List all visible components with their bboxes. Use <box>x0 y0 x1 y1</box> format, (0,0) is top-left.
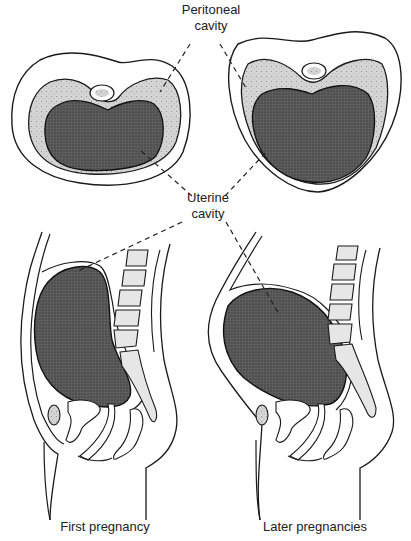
vertebra-1 <box>336 246 358 260</box>
peritoneal-label-line2: cavity <box>172 18 250 34</box>
transverse-first-panel <box>12 53 190 185</box>
rectum <box>114 409 143 460</box>
peritoneal-cavity-label: Peritoneal cavity <box>172 2 250 34</box>
back-contour-inner <box>359 250 366 340</box>
rectum <box>324 409 353 460</box>
caption-first-pregnancy: First pregnancy <box>40 519 170 535</box>
sagittal-first-panel <box>21 232 177 520</box>
thigh-front <box>44 442 50 520</box>
bladder <box>66 400 100 442</box>
transverse-later-panel <box>229 32 401 192</box>
uterine-cavity <box>224 288 347 405</box>
vertebra-1 <box>126 250 148 266</box>
back-contour <box>146 244 177 520</box>
vessel-inner <box>95 89 109 97</box>
sagittal-later-panel <box>208 232 393 520</box>
pubic-symphysis <box>256 405 268 425</box>
peritoneal-label-line1: Peritoneal <box>172 2 250 18</box>
diagram-svg <box>0 0 411 541</box>
uterine-cavity-label: Uterine cavity <box>168 190 248 222</box>
back-contour-inner <box>152 250 160 352</box>
uterine-label-line2: cavity <box>168 206 248 222</box>
uterine-cavity <box>45 101 163 171</box>
vertebra-3 <box>330 284 354 300</box>
bladder <box>276 400 310 442</box>
diagram-stage: Peritoneal cavity Uterine cavity First p… <box>0 0 411 541</box>
vertebra-4 <box>328 304 352 320</box>
vertebra-3 <box>118 290 142 306</box>
vessel-inner <box>307 67 321 75</box>
caption-later-pregnancies: Later pregnancies <box>245 519 385 535</box>
anterior-abdominal-wall-inner <box>230 236 296 290</box>
vertebra-2 <box>122 270 146 286</box>
pubic-symphysis <box>48 405 60 425</box>
vertebra-5 <box>114 330 138 348</box>
vertebra-4 <box>114 310 140 326</box>
vertebra-2 <box>332 264 356 280</box>
uterine-label-line1: Uterine <box>168 190 248 206</box>
vertebra-5 <box>328 324 352 344</box>
